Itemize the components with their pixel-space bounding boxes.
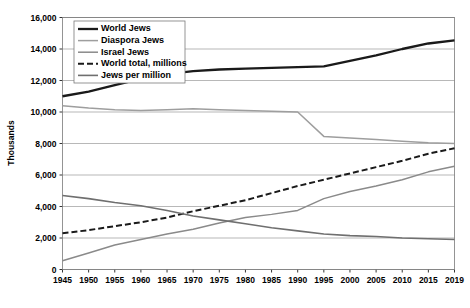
series-line-jews-per-million: [63, 195, 455, 239]
series-line-diaspora-jews: [63, 106, 455, 144]
legend-label-2: Diaspora Jews: [101, 35, 164, 45]
x-tick-label: 1975: [210, 275, 229, 285]
y-tick-label: 0: [52, 265, 57, 275]
line-chart: 02,0004,0006,0008,00010,00012,00014,0001…: [0, 0, 470, 308]
y-tick-label: 14,000: [31, 44, 57, 54]
legend-label-1: World Jews: [101, 23, 151, 33]
x-tick-label: 1970: [184, 275, 203, 285]
x-tick-label: 1985: [262, 275, 281, 285]
x-axis-ticks: 1945195019551960196519701975198019851990…: [53, 270, 464, 285]
legend-label-3: Israel Jews: [101, 47, 149, 57]
y-tick-label: 6,000: [35, 170, 57, 180]
x-tick-label: 1995: [314, 275, 333, 285]
x-tick-label: 1980: [236, 275, 255, 285]
x-tick-label: 1960: [131, 275, 150, 285]
x-tick-label: 1950: [79, 275, 98, 285]
x-tick-label: 1945: [53, 275, 72, 285]
x-tick-label: 2010: [393, 275, 412, 285]
x-tick-label: 1955: [105, 275, 124, 285]
y-tick-label: 8,000: [35, 139, 57, 149]
x-tick-label: 2019: [445, 275, 464, 285]
x-tick-label: 1990: [288, 275, 307, 285]
chart-legend: World JewsDiaspora JewsIsrael JewsWorld …: [74, 21, 187, 83]
x-tick-label: 2005: [367, 275, 386, 285]
x-tick-label: 1965: [158, 275, 177, 285]
series-line-world-total-millions: [63, 148, 455, 233]
y-tick-label: 4,000: [35, 202, 57, 212]
legend-label-5: Jews per million: [101, 70, 171, 80]
chart-container: 02,0004,0006,0008,00010,00012,00014,0001…: [0, 0, 470, 308]
x-tick-label: 2000: [341, 275, 360, 285]
y-tick-label: 12,000: [31, 76, 57, 86]
y-tick-label: 16,000: [31, 13, 57, 23]
legend-label-4: World total, millions: [101, 58, 187, 68]
y-axis-title: Thousands: [6, 120, 16, 166]
y-tick-label: 10,000: [31, 107, 57, 117]
y-axis-ticks: 02,0004,0006,0008,00010,00012,00014,0001…: [31, 13, 63, 275]
y-tick-label: 2,000: [35, 233, 57, 243]
x-tick-label: 2015: [419, 275, 438, 285]
series-line-israel-jews: [63, 166, 455, 261]
